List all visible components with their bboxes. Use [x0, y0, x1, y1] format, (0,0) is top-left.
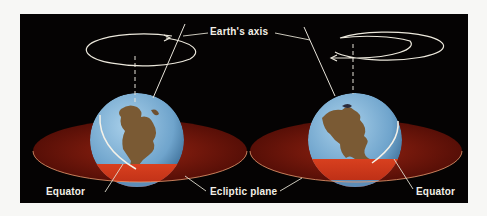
tilted-axis-right	[304, 27, 335, 96]
right-earth-scene	[250, 27, 462, 203]
diagram-graphics	[20, 14, 468, 203]
rotation-arrow-right	[332, 32, 444, 60]
rotation-arrow-left	[86, 34, 195, 66]
earth-axis-diagram: Earth's axis Equator Ecliptic plane Equa…	[20, 14, 468, 203]
left-earth-scene	[33, 24, 247, 203]
label-equator-left: Equator	[46, 186, 85, 197]
label-equator-right: Equator	[416, 186, 455, 197]
label-ecliptic-plane: Ecliptic plane	[210, 186, 277, 197]
label-earths-axis: Earth's axis	[210, 26, 268, 37]
globe-left	[80, 93, 200, 203]
